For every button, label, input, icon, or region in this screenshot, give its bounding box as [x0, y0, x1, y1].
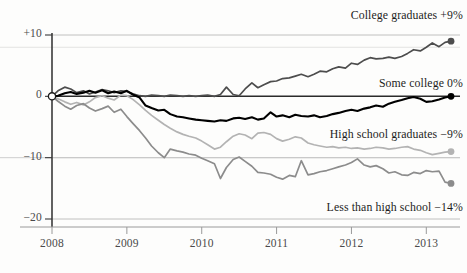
endpoint-marker-less-than-high-school [448, 180, 455, 187]
origin-marker [48, 93, 55, 100]
x-tick-label: 2008 [22, 237, 82, 249]
series-label-high-school-graduates: High school graduates −9% [330, 127, 463, 142]
x-tick-marks-group [52, 227, 426, 234]
series-label-some-college: Some college 0% [379, 76, 463, 91]
x-tick-label: 2013 [396, 237, 456, 249]
y-tick-label: −10 [2, 150, 42, 162]
series-label-less-than-high-school: Less than high school −14% [327, 200, 463, 215]
series-paths-group [52, 41, 451, 183]
x-tick-label: 2012 [321, 237, 381, 249]
y-tick-label: −20 [2, 211, 42, 223]
x-tick-label: 2010 [172, 237, 232, 249]
endpoint-marker-some-college [448, 93, 455, 100]
endpoint-marker-college-graduates [448, 38, 455, 45]
y-tick-label: +10 [2, 27, 42, 39]
endpoint-marker-high-school-graduates [448, 148, 455, 155]
x-tick-label: 2009 [97, 237, 157, 249]
series-endpoint-markers-group [48, 38, 454, 187]
series-label-college-graduates: College graduates +9% [351, 8, 463, 23]
series-line-some-college [52, 90, 451, 121]
x-tick-label: 2011 [247, 237, 307, 249]
chart-container: +100−10−20 200820092010201120122013 Coll… [0, 0, 467, 273]
y-tick-label: 0 [2, 88, 42, 100]
